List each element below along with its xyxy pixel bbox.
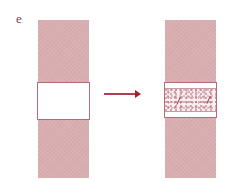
right-arrow-icon (104, 93, 136, 95)
left-tissue-strip (38, 20, 89, 178)
speckled-fill (165, 88, 216, 112)
arrow-head (135, 90, 141, 98)
empty-window (37, 82, 90, 120)
fiber-mark (176, 97, 180, 105)
panel-label: e (16, 12, 22, 25)
fiber-mark (206, 96, 210, 104)
filled-window (164, 82, 217, 118)
right-tissue-strip (165, 20, 216, 178)
